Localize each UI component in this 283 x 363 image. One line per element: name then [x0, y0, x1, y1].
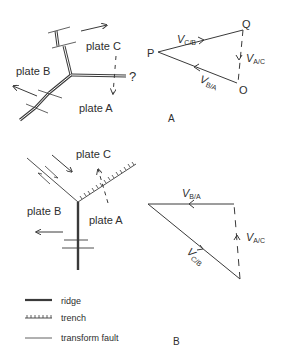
plate-c-motion-arrow: [81, 25, 107, 31]
label-v-cb: VC/B: [177, 33, 196, 46]
plate-c-motion-arrow: [52, 155, 72, 172]
transform-offset-north: [48, 27, 76, 48]
label-v-cb: VC/B: [184, 245, 207, 267]
vector-v-ba: [158, 52, 237, 83]
vector-v-cb: [148, 204, 240, 279]
arrowhead-v-ac: [236, 55, 242, 60]
vertex-q: Q: [242, 18, 251, 30]
trench-teeth-symbol: [27, 315, 51, 318]
plate-a-motion-arrow-dashed: [98, 169, 108, 203]
label-v-ba: VB/A: [182, 187, 201, 200]
plate-c-label: plate C: [76, 148, 111, 160]
diagram-a-plate-geometry: plate C plate B plate A ?: [13, 25, 136, 120]
plate-b-motion-arrow: [13, 86, 37, 96]
ridge-southwest: [20, 75, 71, 120]
trench-northeast: [78, 164, 136, 202]
plate-b-label: plate B: [27, 205, 61, 217]
velocity-triangle-b: [148, 200, 240, 279]
ridge-north: [56, 31, 71, 75]
unknown-motion-marker: ?: [129, 69, 136, 84]
section-label-b: B: [173, 336, 180, 347]
legend-item-transform-fault: transform fault: [25, 333, 119, 343]
legend-label-ridge: ridge: [61, 296, 81, 306]
plate-junction-figure: plate C plate B plate A ? P Q O VC/B VA/…: [0, 0, 283, 363]
label-v-ac: VA/C: [246, 231, 265, 244]
transform-fault-northwest: [27, 158, 78, 202]
plate-a-label: plate A: [79, 102, 113, 114]
legend-item-ridge: ridge: [25, 296, 81, 306]
legend-label-trench: trench: [61, 313, 86, 323]
triangle-b-labels: VB/A VA/C VC/B: [182, 187, 265, 268]
velocity-triangle-a: [158, 30, 243, 83]
legend-label-transform-fault: transform fault: [61, 333, 119, 343]
legend-item-trench: trench: [25, 313, 86, 323]
vertex-p: P: [147, 47, 154, 59]
diagram-b-labels: plate C plate B plate A: [27, 148, 123, 226]
ridge-east: [71, 75, 126, 76]
label-v-ac: VA/C: [246, 52, 265, 65]
legend: ridge trench transform fault: [25, 296, 119, 343]
section-label-a: A: [168, 113, 175, 124]
vertex-o: O: [239, 84, 248, 96]
shear-arrow-lower: [38, 173, 50, 184]
plate-b-label: plate B: [16, 65, 50, 77]
vector-v-ac-dashed: [238, 30, 243, 83]
vector-v-ac-dashed: [234, 204, 240, 279]
vector-v-cb: [158, 30, 243, 52]
plate-a-label: plate A: [89, 214, 123, 226]
shear-arrow-upper: [45, 166, 58, 178]
plate-c-label: plate C: [86, 40, 121, 52]
trench-teeth: [80, 162, 134, 199]
